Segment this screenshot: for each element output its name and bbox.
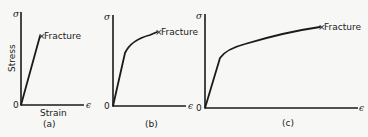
panel-caption: (b) <box>145 119 158 129</box>
stress-strain-curve <box>113 32 157 106</box>
x-axis-symbol: ϵ <box>188 101 193 111</box>
y-axis-symbol: σ <box>196 11 203 21</box>
fracture-label: Fracture <box>161 27 198 37</box>
y-axis-label: Stress <box>7 44 17 72</box>
origin-label: 0 <box>13 100 19 110</box>
x-axis-label: Strain <box>40 108 67 118</box>
panel-a: σ ϵ 0 Stress Strain × Fracture (a) <box>7 9 91 129</box>
panel-caption: (c) <box>282 118 294 128</box>
panel-c: σ ϵ 0 × Fracture (c) <box>196 11 364 128</box>
stress-strain-curve <box>205 27 320 108</box>
origin-label: 0 <box>196 103 202 113</box>
panel-b: σ ϵ 0 × Fracture (b) <box>104 12 198 129</box>
fracture-label: Fracture <box>44 31 81 41</box>
fracture-label: Fracture <box>324 22 361 32</box>
x-axis-symbol: ϵ <box>86 100 91 110</box>
stress-strain-curve <box>21 36 40 105</box>
stress-strain-diagrams: σ ϵ 0 Stress Strain × Fracture (a) σ ϵ 0… <box>0 0 368 137</box>
y-axis-symbol: σ <box>13 9 20 19</box>
x-axis-symbol: ϵ <box>359 103 364 113</box>
origin-label: 0 <box>104 101 110 111</box>
panel-caption: (a) <box>43 119 56 129</box>
y-axis-symbol: σ <box>104 12 111 22</box>
